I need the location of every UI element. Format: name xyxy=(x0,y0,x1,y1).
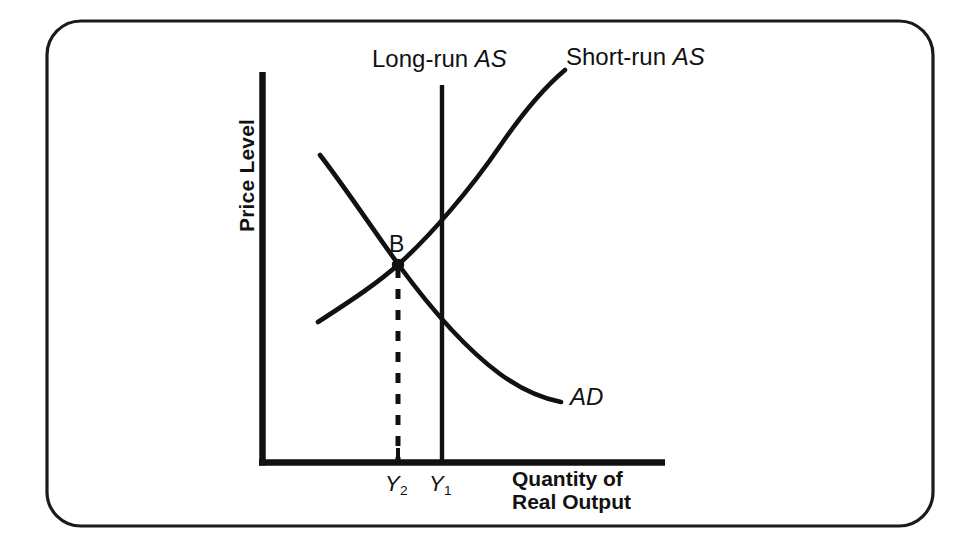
figure-border xyxy=(47,21,933,526)
x-tick-label-y1-base: Y xyxy=(429,471,444,496)
x-axis-title: Quantity ofReal Output xyxy=(512,468,631,513)
x-axis-title-line1: Quantity of xyxy=(512,468,631,491)
x-tick-label-y2: Y2 xyxy=(385,472,407,496)
short-run-as-label-italic: AS xyxy=(673,43,705,70)
long-run-as-label-italic: AS xyxy=(475,45,507,72)
x-tick-label-y2-sub: 2 xyxy=(400,483,408,498)
short-run-as-label: Short-run AS xyxy=(566,44,705,70)
aggregate-demand-label: AD xyxy=(570,384,603,410)
x-tick-label-y2-base: Y xyxy=(385,471,400,496)
ad-as-figure: Long-run AS Short-run AS AD B Y2 Y1 Quan… xyxy=(0,0,965,552)
equilibrium-point-b-dot xyxy=(392,259,404,271)
long-run-as-label-text: Long-run xyxy=(372,45,475,72)
long-run-as-label: Long-run AS xyxy=(372,46,507,72)
x-tick-label-y1: Y1 xyxy=(429,472,451,496)
x-axis-title-line2: Real Output xyxy=(512,491,631,514)
short-run-as-label-text: Short-run xyxy=(566,43,673,70)
figure-canvas xyxy=(0,0,965,552)
x-tick-label-y1-sub: 1 xyxy=(444,483,452,498)
y-axis-title: Price Level xyxy=(236,119,259,232)
equilibrium-point-b-label: B xyxy=(389,232,404,257)
